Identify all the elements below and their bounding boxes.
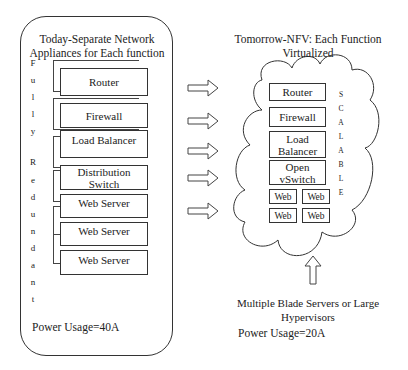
box-label: Web <box>274 210 291 222</box>
box-label: Balancer <box>278 145 317 157</box>
vnf-web: Web <box>269 208 297 223</box>
vnf-web: Web <box>302 189 330 204</box>
vletter: E <box>336 188 346 197</box>
box-label: Web <box>307 210 324 222</box>
vnf-load-balancer: Load Balancer <box>269 131 326 158</box>
hypervisors-label: Multiple Blade Servers or Large Hypervis… <box>228 296 388 324</box>
vletter: L <box>336 132 346 141</box>
hypervisors-label-line2: Hypervisors <box>228 310 388 324</box>
box-label: Load <box>286 133 309 145</box>
right-arrow-icon <box>188 113 218 129</box>
vletter: C <box>336 104 346 113</box>
vletter: B <box>336 160 346 169</box>
tomorrow-power-usage: Power Usage=20A <box>238 327 325 339</box>
vnf-web: Web <box>302 208 330 223</box>
box-label: Web <box>307 191 324 203</box>
right-arrow-icon <box>188 170 218 186</box>
hypervisors-label-line1: Multiple Blade Servers or Large <box>228 296 388 310</box>
box-label: Router <box>283 86 313 98</box>
box-label: Firewall <box>279 111 316 123</box>
tomorrow-title: Tomorrow-NFV: Each Function Virtualized <box>228 32 388 60</box>
tomorrow-title-line2: Virtualized <box>228 46 388 60</box>
right-arrow-icons <box>188 80 218 219</box>
box-label: Web <box>274 191 291 203</box>
vletter: A <box>336 118 346 127</box>
vnf-router: Router <box>269 83 326 101</box>
right-arrow-icon <box>188 143 218 159</box>
up-arrow-icon <box>305 256 321 284</box>
vnf-firewall: Firewall <box>269 107 326 127</box>
vletter: L <box>336 174 346 183</box>
box-label: vSwitch <box>279 173 315 185</box>
right-arrow-icon <box>188 203 218 219</box>
vletter: A <box>336 146 346 155</box>
vnf-web: Web <box>269 189 297 204</box>
vletter: S <box>336 90 346 99</box>
vnf-open-vswitch: Open vSwitch <box>269 160 326 185</box>
tomorrow-title-line1: Tomorrow-NFV: Each Function <box>228 32 388 46</box>
box-label: Open <box>286 161 310 173</box>
right-arrow-icon <box>188 80 218 96</box>
